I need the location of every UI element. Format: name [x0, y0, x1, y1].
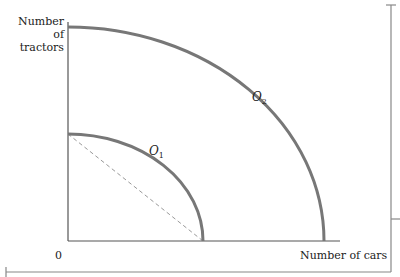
- curve-o2-label: O2: [252, 91, 267, 108]
- y-axis-label-line-1: Number: [0, 15, 64, 28]
- y-axis-label: Number of tractors: [0, 15, 64, 54]
- x-axis-label: Number of cars: [300, 249, 387, 262]
- y-axis-label-line-3: tractors: [0, 41, 64, 54]
- y-axis-label-line-2: of: [0, 28, 64, 41]
- origin-label: 0: [55, 249, 62, 262]
- curve-o2-letter: O: [252, 90, 262, 104]
- curve-o1-letter: O: [149, 144, 159, 158]
- curve-o2-subscript: 2: [262, 97, 267, 106]
- dashed-linear-frontier: [68, 134, 203, 241]
- curve-o1-subscript: 1: [159, 151, 164, 160]
- curve-o1-label: O1: [149, 145, 164, 162]
